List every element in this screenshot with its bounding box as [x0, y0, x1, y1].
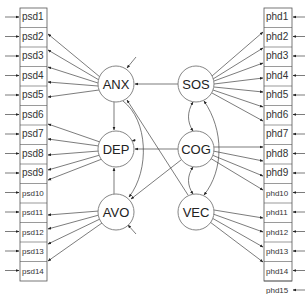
indicator-label: psd3 — [22, 50, 44, 61]
indicator-label: psd5 — [22, 89, 44, 100]
indicator-label: phd5 — [266, 89, 289, 100]
latent-avo: AVO — [98, 194, 134, 230]
indicator-label: psd14 — [22, 267, 44, 276]
path-avo-psd — [48, 211, 99, 215]
path-anx-psd — [48, 90, 99, 97]
latent-label-sos: SOS — [182, 77, 210, 92]
indicator-label: phd1 — [266, 11, 289, 22]
path-dep-psd — [48, 151, 99, 155]
path-sos-phd — [214, 78, 263, 84]
latent-anx: ANX — [98, 66, 134, 102]
indicator-label: psd13 — [22, 247, 44, 256]
sem-path-diagram: psd1psd2psd3psd4psd5psd6psd7psd8psd9psd1… — [0, 0, 308, 294]
latent-cog: COG — [178, 131, 214, 167]
path-sos-phd — [214, 63, 263, 81]
right-indicator-box: phd1phd2phd3phd4phd5phd6phd7phd8phd9phd1… — [264, 8, 292, 294]
latent-label-anx: ANX — [103, 77, 130, 92]
path-avo-psd — [48, 215, 99, 229]
cov-sos-cog — [189, 102, 194, 131]
indicator-label: psd11 — [22, 208, 44, 217]
indicator-label: phd15 — [266, 286, 289, 294]
path-anx-psd — [48, 82, 98, 86]
disturbance-anx — [127, 57, 136, 68]
left-indicator-box: psd1psd2psd3psd4psd5psd6psd7psd8psd9psd1… — [20, 8, 47, 281]
latent-dep: DEP — [98, 131, 134, 167]
indicator-label: psd7 — [22, 128, 44, 139]
latent-label-vec: VEC — [183, 205, 210, 220]
indicator-label: psd1 — [22, 11, 44, 22]
path-vec-phd — [210, 222, 263, 262]
indicator-label: phd11 — [266, 208, 288, 217]
indicator-label: phd14 — [266, 267, 289, 276]
cov-cog-vec — [189, 167, 194, 194]
indicator-label: phd4 — [266, 70, 289, 81]
path-sos-phd — [212, 93, 263, 121]
path-anx-psd — [48, 34, 100, 77]
path-sos-phd — [213, 90, 263, 107]
indicator-label: psd9 — [22, 167, 44, 178]
indicator-label: phd6 — [266, 109, 289, 120]
factor-loading-paths — [48, 32, 263, 262]
indicator-label: phd3 — [266, 50, 289, 61]
path-sos-phd — [213, 48, 263, 79]
indicator-label: psd4 — [22, 70, 44, 81]
indicator-label: psd12 — [22, 228, 44, 237]
latent-vec: VEC — [178, 194, 214, 230]
indicator-label: phd7 — [266, 128, 289, 139]
indicator-label: psd6 — [22, 109, 44, 120]
disturbance-avo — [128, 225, 136, 234]
latent-label-dep: DEP — [103, 142, 130, 157]
latent-label-avo: AVO — [103, 205, 130, 220]
indicator-label: psd8 — [22, 148, 44, 159]
indicator-label: psd2 — [22, 31, 44, 42]
indicator-label: phd9 — [266, 167, 289, 178]
indicator-label: phd2 — [266, 31, 289, 42]
path-sos-phd — [214, 87, 263, 92]
path-cog-phd — [212, 155, 263, 176]
indicator-label: phd8 — [266, 148, 289, 159]
right-error-arrows — [293, 17, 305, 290]
path-cog-phd — [213, 151, 263, 161]
latent-sos: SOS — [178, 66, 214, 102]
indicator-label: psd10 — [22, 189, 44, 198]
left-error-arrows — [5, 17, 19, 271]
disturbance-dep — [132, 140, 136, 141]
path-dep-psd — [48, 124, 100, 142]
path-dep-psd — [48, 139, 99, 146]
indicator-label: phd12 — [266, 228, 289, 237]
indicator-label: phd13 — [266, 247, 289, 256]
latent-label-cog: COG — [181, 142, 211, 157]
path-sos-phd — [212, 32, 263, 76]
path-avo-psd — [48, 223, 102, 261]
path-avo-psd — [48, 219, 100, 244]
indicator-label: phd10 — [266, 189, 289, 198]
